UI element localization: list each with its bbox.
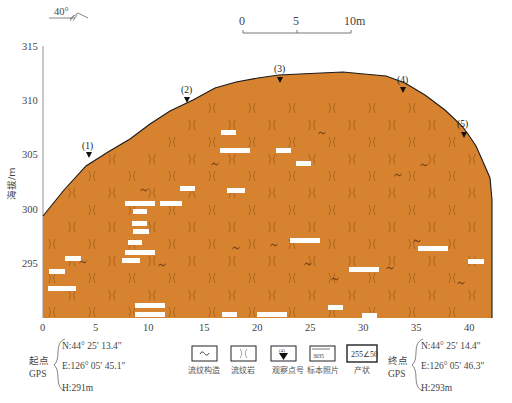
orientation-label: 40°: [54, 6, 69, 17]
sample-tag: [296, 161, 311, 166]
sample-tag: [65, 256, 81, 261]
marker-label: (1): [82, 141, 93, 152]
y-axis-label: 海拔/m: [6, 168, 17, 200]
gps-end-h: H:293m: [421, 383, 453, 393]
marker-2[interactable]: (2): [181, 85, 192, 103]
legend-item-survey-point: (4) 观察点号: [271, 346, 304, 375]
y-tick-310: 310: [22, 95, 38, 106]
gps-end-n: N:44° 25′ 14.4″: [421, 341, 481, 351]
y-tick-295: 295: [22, 258, 38, 269]
sample-tag: [227, 188, 245, 193]
y-tick-305: 305: [22, 149, 38, 160]
sample-tag: [349, 267, 379, 272]
legend: 流纹构造 流纹岩 (4) 观察点号 3035 标本照片 255∠50 产状: [188, 345, 378, 375]
gps-start-label: 起点: [29, 355, 49, 366]
legend-caption: 观察点号: [272, 365, 304, 375]
legend-item-flow-structure: 流纹构造: [188, 346, 220, 375]
scale-tick-5: 5: [293, 14, 299, 28]
marker-label: (5): [457, 119, 468, 130]
legend-caption: 流纹岩: [231, 365, 255, 375]
sample-tag: [290, 238, 320, 243]
x-axis: 0 5 10 15 20 25 30 35 40: [40, 322, 475, 333]
attitude-icon: 255∠50: [351, 350, 378, 359]
gps-end-block: 终点 GPS N:44° 25′ 14.4″ E:126° 05′ 46.3″ …: [388, 339, 484, 393]
sample-tag: [222, 312, 237, 317]
marker-triangle-icon: [86, 152, 92, 158]
scale-bar: 0 5 10m: [239, 14, 366, 33]
sample-tag: [257, 312, 287, 317]
x-tick-0: 0: [40, 322, 45, 333]
x-tick-10: 10: [143, 322, 154, 333]
marker-label: (4): [397, 75, 408, 86]
scale-tick-0: 0: [239, 14, 245, 28]
sample-tag: [135, 303, 165, 308]
x-tick-40: 40: [464, 322, 475, 333]
sample-tag: [128, 240, 142, 245]
sample-tag: [220, 148, 250, 153]
x-tick-30: 30: [358, 322, 369, 333]
sample-tag: [133, 209, 147, 214]
marker-1[interactable]: (1): [82, 141, 93, 158]
gps-start-block: 起点 GPS N:44° 25′ 13.4″ E:126° 05′ 45.1″ …: [29, 339, 125, 393]
sample-tag: [468, 259, 484, 264]
gps-end-label: 终点: [388, 355, 408, 366]
sample-tag: [221, 130, 236, 135]
orientation-indicator: 40°: [49, 6, 88, 21]
sample-tag: [135, 312, 165, 317]
legend-caption: 标本照片: [307, 365, 339, 375]
marker-label: (3): [274, 64, 285, 75]
sample-tag: [362, 313, 377, 318]
scale-tick-10m: 10m: [344, 14, 366, 28]
sample-tag: [125, 250, 155, 255]
cross-section-figure: 40° 0 5 10m 315 310 305 300 295 海拔/m: [0, 0, 512, 403]
legend-item-rhyolite: 流纹岩: [231, 346, 256, 375]
specimen-photo-icon: [312, 348, 330, 350]
sample-tag: [328, 305, 343, 310]
sample-tag: [160, 201, 182, 206]
sample-tag: [180, 186, 195, 191]
legend-caption: 流纹构造: [188, 365, 220, 375]
gps-end-label-gps: GPS: [388, 369, 405, 379]
y-axis: 315 310 305 300 295 海拔/m: [6, 41, 43, 318]
legend-icon-text: (4): [279, 348, 285, 353]
gps-end-e: E:126° 05′ 46.3″: [421, 361, 484, 371]
legend-item-specimen-photo: 3035 标本照片: [307, 346, 339, 375]
legend-caption: 产状: [354, 365, 370, 375]
sample-tag: [48, 286, 76, 291]
gps-start-e: E:126° 05′ 45.1″: [62, 361, 125, 371]
sample-tag: [122, 258, 140, 263]
legend-item-attitude: 255∠50 产状: [347, 345, 378, 375]
gps-start-label-gps: GPS: [29, 369, 46, 379]
sample-tag: [125, 201, 155, 206]
y-tick-300: 300: [22, 204, 38, 215]
x-tick-15: 15: [199, 322, 210, 333]
gps-start-n: N:44° 25′ 13.4″: [62, 341, 122, 351]
sample-tag: [132, 221, 147, 226]
sample-tag: [133, 229, 149, 234]
sample-tag: [418, 246, 448, 251]
gps-start-h: H:291m: [62, 383, 94, 393]
marker-label: (2): [181, 85, 192, 96]
x-tick-35: 35: [411, 322, 422, 333]
y-tick-315: 315: [22, 41, 38, 52]
sample-tag: [49, 269, 65, 274]
x-tick-5: 5: [93, 322, 98, 333]
x-tick-20: 20: [252, 322, 263, 333]
x-tick-25: 25: [305, 322, 316, 333]
legend-icon-text: 3035: [313, 353, 324, 359]
sample-tag: [276, 148, 291, 153]
